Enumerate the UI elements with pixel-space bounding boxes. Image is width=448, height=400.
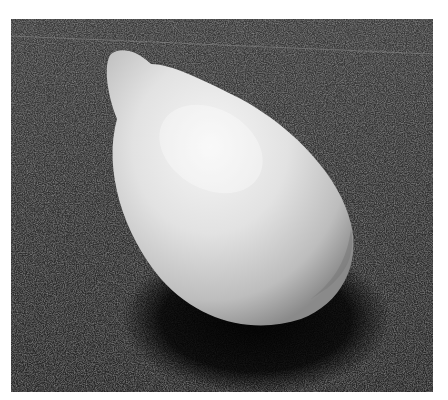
photograph xyxy=(11,19,433,392)
seed-photo-svg xyxy=(11,19,433,392)
